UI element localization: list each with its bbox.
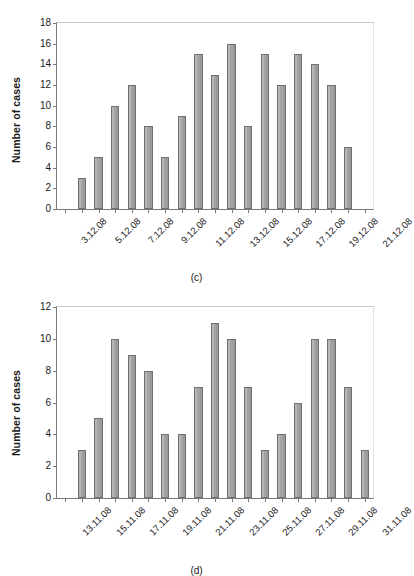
y-axis-tick bbox=[53, 23, 57, 24]
bar bbox=[294, 54, 302, 209]
bar bbox=[277, 434, 285, 498]
bar bbox=[227, 44, 235, 209]
x-axis-tick bbox=[232, 209, 233, 213]
y-axis-tick bbox=[53, 44, 57, 45]
x-axis-tick bbox=[265, 498, 266, 502]
y-axis-tick bbox=[53, 371, 57, 372]
y-axis-tick-label: 8 bbox=[45, 366, 51, 376]
bar bbox=[344, 147, 352, 209]
bar bbox=[161, 434, 169, 498]
y-axis-tick-label: 6 bbox=[45, 142, 51, 152]
y-axis-tick-label: 2 bbox=[45, 461, 51, 471]
bar bbox=[111, 106, 119, 209]
y-axis-tick bbox=[53, 434, 57, 435]
y-axis-tick-label: 10 bbox=[40, 101, 51, 111]
x-axis-tick bbox=[315, 498, 316, 502]
x-axis-tick bbox=[348, 498, 349, 502]
x-axis-tick bbox=[82, 209, 83, 213]
y-axis-tick bbox=[53, 168, 57, 169]
bar bbox=[128, 355, 136, 498]
y-axis-tick bbox=[53, 466, 57, 467]
x-axis-tick bbox=[315, 209, 316, 213]
bar bbox=[211, 323, 219, 498]
x-axis-tick bbox=[99, 209, 100, 213]
bar bbox=[311, 64, 319, 209]
chart-panel-c: Number of cases 024681012141618 3.12.085… bbox=[0, 0, 393, 288]
y-axis-tick-label: 18 bbox=[40, 18, 51, 28]
x-axis-tick bbox=[265, 209, 266, 213]
x-axis-tick-label: 21.11.08 bbox=[214, 505, 246, 537]
bar bbox=[227, 339, 235, 498]
x-axis-tick bbox=[182, 209, 183, 213]
x-axis-tick-label: 7.12.08 bbox=[146, 216, 175, 245]
bar bbox=[294, 403, 302, 499]
bar bbox=[211, 75, 219, 209]
x-axis-tick-label: 19.12.08 bbox=[347, 216, 380, 249]
y-axis-tick-label: 0 bbox=[45, 204, 51, 214]
x-axis-tick bbox=[298, 498, 299, 502]
y-axis-title-d: Number of cases bbox=[10, 318, 24, 508]
bar bbox=[261, 54, 269, 209]
x-axis-tick-label: 13.12.08 bbox=[247, 216, 280, 249]
bar bbox=[327, 339, 335, 498]
y-axis-tick-label: 12 bbox=[40, 80, 51, 90]
x-axis-tick-label: 9.12.08 bbox=[179, 216, 208, 245]
bar bbox=[94, 157, 102, 209]
y-axis-tick bbox=[53, 188, 57, 189]
x-axis-tick-label: 19.11.08 bbox=[181, 505, 213, 537]
y-axis-tick-label: 6 bbox=[45, 398, 51, 408]
plot-area-d: 024681012 bbox=[56, 306, 374, 499]
bar bbox=[344, 387, 352, 498]
bar bbox=[327, 85, 335, 209]
x-axis-tick bbox=[148, 209, 149, 213]
x-axis-tick-label: 27.11.08 bbox=[314, 505, 346, 537]
bar bbox=[144, 371, 152, 498]
x-axis-tick bbox=[165, 498, 166, 502]
x-axis-tick bbox=[348, 209, 349, 213]
x-axis-tick bbox=[215, 209, 216, 213]
x-axis-tick-label: 29.11.08 bbox=[347, 505, 379, 537]
bars-container-c bbox=[57, 23, 373, 209]
y-axis-tick bbox=[53, 307, 57, 308]
x-axis-tick bbox=[215, 498, 216, 502]
x-axis-tick bbox=[82, 498, 83, 502]
bar bbox=[94, 418, 102, 498]
y-axis-tick bbox=[53, 209, 57, 210]
y-axis-title-c: Number of cases bbox=[10, 25, 24, 215]
x-axis-tick bbox=[148, 498, 149, 502]
y-axis-tick-label: 8 bbox=[45, 121, 51, 131]
x-axis-tick bbox=[99, 498, 100, 502]
x-axis-tick-label: 13.11.08 bbox=[81, 505, 113, 537]
y-axis-tick bbox=[53, 85, 57, 86]
y-axis-tick-label: 2 bbox=[45, 183, 51, 193]
x-axis-tick bbox=[65, 498, 66, 502]
x-axis-tick bbox=[248, 209, 249, 213]
x-axis-tick bbox=[282, 498, 283, 502]
y-axis-tick bbox=[53, 106, 57, 107]
bar bbox=[311, 339, 319, 498]
x-axis-tick bbox=[65, 209, 66, 213]
bar bbox=[244, 126, 252, 209]
x-axis-tick bbox=[232, 498, 233, 502]
x-axis-tick bbox=[115, 209, 116, 213]
bar bbox=[244, 387, 252, 498]
bars-container-d bbox=[57, 307, 373, 498]
x-axis-tick-label: 25.11.08 bbox=[281, 505, 313, 537]
chart-panel-d: Number of cases 024681012 13.11.0815.11.… bbox=[0, 288, 393, 576]
bar bbox=[194, 387, 202, 498]
x-axis-tick-label: 15.12.08 bbox=[281, 216, 314, 249]
x-axis-tick bbox=[132, 209, 133, 213]
panel-caption-d: (d) bbox=[0, 565, 393, 576]
y-axis-tick bbox=[53, 498, 57, 499]
bar bbox=[144, 126, 152, 209]
x-axis-tick bbox=[198, 498, 199, 502]
bar bbox=[78, 450, 86, 498]
bar bbox=[111, 339, 119, 498]
panel-caption-c: (c) bbox=[0, 272, 393, 283]
x-axis-tick bbox=[165, 209, 166, 213]
x-axis-tick bbox=[132, 498, 133, 502]
y-axis-tick-label: 14 bbox=[40, 59, 51, 69]
y-axis-tick-label: 4 bbox=[45, 163, 51, 173]
bar bbox=[194, 54, 202, 209]
y-axis-tick-label: 16 bbox=[40, 39, 51, 49]
